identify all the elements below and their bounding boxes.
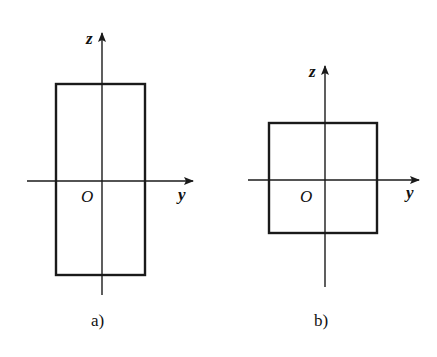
cross-section-rect-b	[269, 123, 377, 233]
y-axis-label-a: y	[178, 186, 186, 203]
figure-b	[248, 66, 419, 287]
caption-a: a)	[91, 312, 104, 329]
diagram-canvas: z y O a) z y O b)	[0, 0, 437, 357]
figure-a	[27, 33, 193, 295]
origin-label-a: O	[81, 188, 93, 205]
z-axis-label-a: z	[86, 30, 93, 47]
origin-label-b: O	[300, 188, 312, 205]
y-axis-label-b: y	[406, 184, 414, 201]
cross-section-rect-a	[56, 84, 145, 275]
z-axis-label-b: z	[309, 63, 316, 80]
diagram-svg	[0, 0, 437, 357]
caption-b: b)	[314, 312, 328, 329]
